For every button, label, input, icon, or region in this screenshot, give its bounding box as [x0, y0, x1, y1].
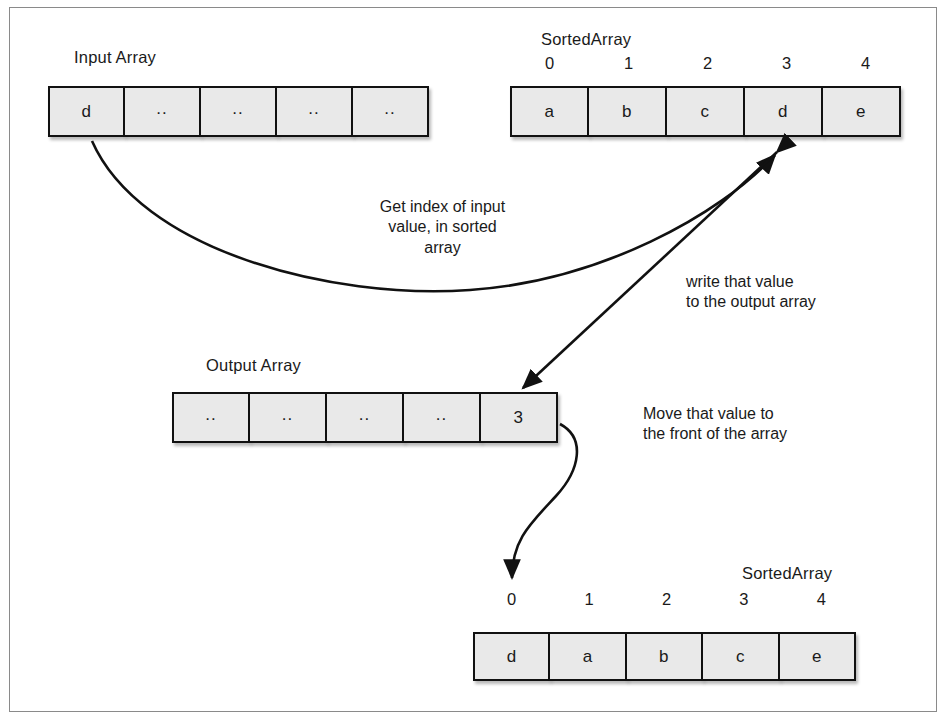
cell-value: a	[583, 647, 593, 667]
note-get-index: Get index of input value, in sorted arra…	[335, 197, 550, 258]
output-array-cell-1: ..	[249, 392, 327, 443]
sorted-array-top-cell-4: e	[822, 86, 901, 137]
output-array-cell-2: ..	[326, 392, 404, 443]
cell-value: c	[736, 647, 745, 667]
output-array: .. .. .. .. 3	[172, 392, 558, 443]
sorted-array-top-cell-0: a	[510, 86, 589, 137]
input-array: d .. .. .. ..	[48, 86, 431, 137]
index-label: 3	[747, 54, 826, 73]
index-label: 2	[628, 590, 705, 609]
cell-value: a	[545, 102, 555, 122]
cell-value: 3	[514, 408, 524, 428]
diagram-canvas: Input Array d .. .. .. .. SortedArray 0 …	[0, 0, 948, 721]
sorted-array-bottom-label: SortedArray	[742, 564, 832, 583]
input-array-cell-2: ..	[200, 86, 277, 137]
index-label: 3	[705, 590, 782, 609]
cell-value: ..	[436, 410, 447, 420]
sorted-array-bottom-cell-4: e	[779, 632, 856, 681]
sorted-array-top-indices: 0 1 2 3 4	[510, 54, 905, 73]
cell-value: ..	[359, 410, 370, 420]
cell-value: d	[507, 647, 517, 667]
index-label: 0	[473, 590, 550, 609]
sorted-array-bottom-cell-0: d	[473, 632, 550, 681]
index-label: 4	[783, 590, 860, 609]
cell-value: ..	[282, 410, 293, 420]
sorted-array-bottom: d a b c e	[473, 632, 860, 681]
cell-value: ..	[232, 104, 243, 114]
cell-value: b	[622, 102, 632, 122]
cell-value: d	[778, 102, 788, 122]
input-array-cell-3: ..	[276, 86, 353, 137]
cell-value: d	[82, 102, 92, 122]
sorted-array-bottom-indices: 0 1 2 3 4	[473, 590, 860, 609]
note-move-value: Move that value to the front of the arra…	[643, 404, 883, 445]
index-label: 2	[668, 54, 747, 73]
output-array-cell-4: 3	[480, 392, 558, 443]
cell-value: c	[701, 102, 710, 122]
cell-value: ..	[205, 410, 216, 420]
output-array-cell-3: ..	[403, 392, 481, 443]
cell-value: ..	[156, 104, 167, 114]
cell-value: b	[659, 647, 669, 667]
output-array-cell-0: ..	[172, 392, 250, 443]
index-label: 4	[826, 54, 905, 73]
input-array-cell-0: d	[48, 86, 125, 137]
cell-value: e	[856, 102, 866, 122]
input-array-cell-1: ..	[124, 86, 201, 137]
cell-value: ..	[308, 104, 319, 114]
index-label: 1	[589, 54, 668, 73]
sorted-array-bottom-cell-2: b	[626, 632, 703, 681]
note-write-value: write that value to the output array	[686, 272, 916, 313]
input-array-cell-4: ..	[352, 86, 429, 137]
sorted-array-top: a b c d e	[510, 86, 905, 137]
index-label: 0	[510, 54, 589, 73]
sorted-array-top-label: SortedArray	[541, 30, 631, 49]
sorted-array-bottom-cell-1: a	[549, 632, 626, 681]
output-array-label: Output Array	[206, 356, 301, 375]
input-array-label: Input Array	[74, 48, 156, 67]
index-label: 1	[550, 590, 627, 609]
sorted-array-bottom-cell-3: c	[702, 632, 779, 681]
sorted-array-top-cell-3: d	[744, 86, 823, 137]
sorted-array-top-cell-1: b	[588, 86, 667, 137]
cell-value: e	[812, 647, 822, 667]
sorted-array-top-cell-2: c	[666, 86, 745, 137]
cell-value: ..	[384, 104, 395, 114]
